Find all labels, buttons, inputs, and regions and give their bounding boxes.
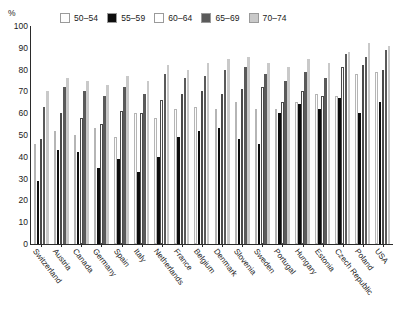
bar-hungary-70-74 xyxy=(307,59,310,244)
bar-poland-70-74 xyxy=(368,43,371,244)
bar-group-poland xyxy=(355,26,370,244)
legend-swatch-60-64 xyxy=(154,13,164,23)
legend-swatch-50-54 xyxy=(60,13,70,23)
legend-label-70-74: 70–74 xyxy=(263,13,287,23)
bar-estonia-70-74 xyxy=(328,63,331,244)
y-axis-tick-50: 50 xyxy=(2,131,28,140)
bar-switzerland-70-74 xyxy=(46,91,49,244)
y-axis-tick-30: 30 xyxy=(2,175,28,184)
legend-label-60-64: 60–64 xyxy=(168,13,192,23)
bar-usa-70-74 xyxy=(388,46,391,244)
bar-group-france xyxy=(174,26,189,244)
bar-group-hungary xyxy=(295,26,310,244)
bar-spain-70-74 xyxy=(126,76,129,244)
y-axis-tick-40: 40 xyxy=(2,153,28,162)
bar-austria-70-74 xyxy=(66,78,69,244)
bar-sweden-70-74 xyxy=(267,63,270,244)
bar-italy-70-74 xyxy=(147,81,150,245)
bar-group-usa xyxy=(375,26,390,244)
bar-group-sweden xyxy=(255,26,270,244)
bar-group-canada xyxy=(74,26,89,244)
legend-item-65-69: 65–69 xyxy=(201,13,239,23)
bar-group-belgium xyxy=(194,26,209,244)
bar-group-portugal xyxy=(275,26,290,244)
x-axis-category-labels: SwitzerlandAustriaCanadaGermanySpainItal… xyxy=(30,247,392,317)
bar-group-spain xyxy=(114,26,129,244)
bar-canada-70-74 xyxy=(86,81,89,245)
bar-portugal-70-74 xyxy=(287,67,290,244)
plot-area xyxy=(30,26,393,245)
bar-group-italy xyxy=(134,26,149,244)
bar-netherlands-70-74 xyxy=(167,65,170,244)
y-axis-tick-0: 0 xyxy=(2,240,28,249)
bar-group-czech-republic xyxy=(335,26,350,244)
legend-item-50-54: 50–54 xyxy=(60,13,98,23)
bar-slovenia-70-74 xyxy=(247,57,250,244)
y-axis-tick-labels: 0102030405060708090100 xyxy=(0,0,28,317)
bar-groups xyxy=(31,26,393,244)
bar-germany-70-74 xyxy=(106,85,109,244)
grouped-bar-chart: 50–54 55–59 60–64 65–69 70–74 % 01020304… xyxy=(0,0,398,317)
x-axis-label-italy: Italy xyxy=(132,247,148,264)
bar-group-austria xyxy=(54,26,69,244)
bar-group-netherlands xyxy=(154,26,169,244)
bar-group-slovenia xyxy=(235,26,250,244)
legend-item-60-64: 60–64 xyxy=(154,13,192,23)
bar-czech-republic-70-74 xyxy=(348,52,351,244)
y-axis-tick-70: 70 xyxy=(2,87,28,96)
legend-label-55-59: 55–59 xyxy=(121,13,145,23)
legend-item-70-74: 70–74 xyxy=(249,13,287,23)
y-axis-tick-10: 10 xyxy=(2,218,28,227)
y-axis-tick-60: 60 xyxy=(2,109,28,118)
bar-group-estonia xyxy=(315,26,330,244)
y-axis-tick-20: 20 xyxy=(2,196,28,205)
bar-group-denmark xyxy=(215,26,230,244)
chart-legend: 50–54 55–59 60–64 65–69 70–74 xyxy=(60,11,287,25)
legend-label-65-69: 65–69 xyxy=(215,13,239,23)
legend-swatch-55-59 xyxy=(107,13,117,23)
bar-france-70-74 xyxy=(187,70,190,244)
bar-denmark-70-74 xyxy=(227,59,230,244)
legend-item-55-59: 55–59 xyxy=(107,13,145,23)
bar-group-germany xyxy=(94,26,109,244)
x-axis-label-usa: USA xyxy=(373,247,390,266)
legend-label-50-54: 50–54 xyxy=(74,13,98,23)
y-axis-tick-100: 100 xyxy=(2,22,28,31)
bar-belgium-70-74 xyxy=(207,63,210,244)
y-axis-tick-90: 90 xyxy=(2,44,28,53)
x-axis-label-spain: Spain xyxy=(111,247,131,269)
bar-group-switzerland xyxy=(34,26,49,244)
legend-swatch-65-69 xyxy=(201,13,211,23)
y-axis-tick-80: 80 xyxy=(2,66,28,75)
legend-swatch-70-74 xyxy=(249,13,259,23)
